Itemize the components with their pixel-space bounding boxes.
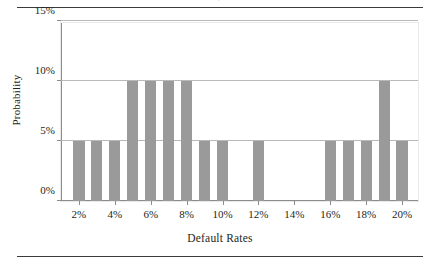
x-tick-mark-14: [294, 201, 295, 205]
x-tick-mark-16: [330, 201, 331, 205]
bar-17pct: [343, 141, 354, 201]
x-tick-label-10pct: 10%: [203, 208, 243, 220]
y-tick-mark-15: [57, 20, 61, 21]
y-tick-label-5pct: 5%: [9, 125, 55, 136]
bar-7pct: [163, 81, 174, 201]
bar-8pct: [181, 81, 192, 201]
y-tick-label-15pct: 15%: [9, 5, 55, 16]
x-tick-label-8pct: 8%: [167, 208, 207, 220]
y-tick-mark-5: [57, 140, 61, 141]
x-tick-label-2pct: 2%: [59, 208, 99, 220]
x-tick-mark-4: [115, 201, 116, 205]
x-tick-mark-10: [223, 201, 224, 205]
bar-16pct: [325, 141, 336, 201]
y-tick-mark-10: [57, 80, 61, 81]
x-tick-mark-12: [258, 201, 259, 205]
x-tick-mark-20: [402, 201, 403, 205]
x-tick-label-20pct: 20%: [382, 208, 422, 220]
gridline-y-15: [61, 20, 418, 21]
y-axis-line: [61, 23, 62, 201]
x-tick-label-14pct: 14%: [274, 208, 314, 220]
y-tick-mark-0: [57, 200, 61, 201]
x-tick-mark-6: [151, 201, 152, 205]
bar-6pct: [145, 81, 156, 201]
chart: Probability 0%5%10%15% 2%4%6%8%10%12%14%…: [0, 14, 440, 254]
plot-area: 0%5%10%15% 2%4%6%8%10%12%14%16%18%20%: [60, 22, 419, 202]
bar-18pct: [361, 141, 372, 201]
bar-5pct: [127, 81, 138, 201]
bar-9pct: [199, 141, 210, 201]
bar-12pct: [253, 141, 264, 201]
bar-2pct: [73, 141, 84, 201]
x-tick-label-6pct: 6%: [131, 208, 171, 220]
x-tick-mark-2: [79, 201, 80, 205]
x-tick-mark-8: [187, 201, 188, 205]
bar-3pct: [91, 141, 102, 201]
x-tick-label-12pct: 12%: [238, 208, 278, 220]
x-tick-label-18pct: 18%: [346, 208, 386, 220]
x-tick-label-16pct: 16%: [310, 208, 350, 220]
y-tick-label-10pct: 10%: [9, 65, 55, 76]
figure-container: p Probability 0%5%10%15% 2%4%6%8%10%12%1…: [0, 0, 440, 266]
bar-20pct: [396, 141, 407, 201]
figure-bottom-rule: [17, 256, 423, 257]
bar-19pct: [379, 81, 390, 201]
bar-4pct: [109, 141, 120, 201]
x-axis-title: Default Rates: [0, 232, 440, 244]
clipped-caption-above-rule: p: [0, 0, 440, 1]
x-tick-label-4pct: 4%: [95, 208, 135, 220]
y-tick-label-0pct: 0%: [9, 185, 55, 196]
gridline-y-10: [61, 80, 418, 81]
bar-10pct: [217, 141, 228, 201]
figure-top-rule: [17, 7, 423, 8]
x-tick-mark-18: [366, 201, 367, 205]
